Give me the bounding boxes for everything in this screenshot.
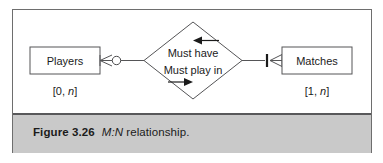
crows-foot-icon-right — [270, 55, 282, 67]
figure-container: Players [0, n] Must have — [0, 0, 383, 163]
arrow-right-icon — [168, 78, 193, 86]
figure-caption-emphasis: M:N — [102, 126, 123, 138]
figure-caption: Figure 3.26M:Nrelationship. — [33, 126, 190, 138]
entity-label-matches: Matches — [296, 55, 338, 67]
cardinality-label-players: [0, n] — [53, 85, 77, 97]
arrow-left-icon — [193, 37, 219, 45]
figure-frame: Players [0, n] Must have — [12, 9, 372, 153]
crows-foot-icon-left — [100, 55, 112, 66]
entity-label-players: Players — [47, 55, 84, 67]
relationship-diamond[interactable] — [144, 22, 242, 99]
er-diagram-svg: Players [0, n] Must have — [13, 10, 371, 113]
er-diagram-canvas: Players [0, n] Must have — [13, 10, 371, 113]
figure-caption-rest: relationship. — [126, 126, 189, 138]
cardinality-label-matches: [1, n] — [305, 85, 329, 97]
relationship-label-top: Must have — [168, 47, 219, 59]
optionality-circle-icon-left — [112, 56, 120, 64]
relationship-label-bottom: Must play in — [164, 64, 223, 76]
figure-caption-bar: Figure 3.26M:Nrelationship. — [13, 113, 371, 153]
figure-number: Figure 3.26 — [33, 126, 95, 138]
